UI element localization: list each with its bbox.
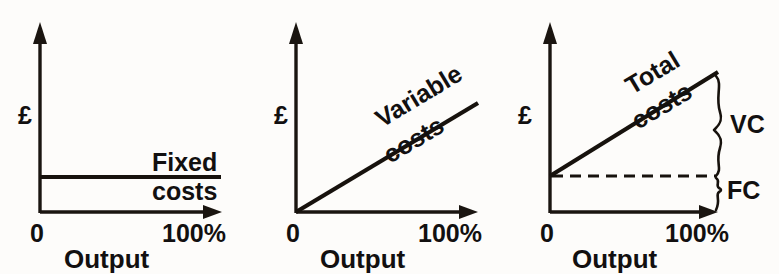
chart-total-costs: £ 0 100% Output Total costs VC FC bbox=[518, 22, 765, 274]
y-axis-arrow-icon bbox=[289, 22, 303, 44]
variable-max-tick-label: 100% bbox=[418, 219, 482, 247]
x-axis-arrow-icon bbox=[203, 205, 222, 219]
fixed-y-axis-label: £ bbox=[18, 101, 32, 129]
variable-y-axis bbox=[289, 22, 303, 213]
total-y-axis-label: £ bbox=[518, 101, 532, 129]
y-axis-arrow-icon bbox=[543, 22, 557, 44]
total-origin-tick-label: 0 bbox=[540, 219, 554, 247]
cost-behaviour-diagram: £ 0 100% Output Fixed costs £ 0 100% Out… bbox=[0, 0, 779, 274]
y-axis-arrow-icon bbox=[33, 22, 47, 44]
variable-origin-tick-label: 0 bbox=[286, 219, 300, 247]
fixed-x-axis bbox=[40, 205, 222, 219]
variable-cost-bracket-icon bbox=[714, 76, 721, 176]
total-x-axis bbox=[550, 205, 718, 219]
fixed-origin-tick-label: 0 bbox=[30, 219, 44, 247]
fixed-cost-bracket-label: FC bbox=[727, 176, 760, 204]
chart-variable-costs: £ 0 100% Output Variable costs bbox=[274, 22, 482, 274]
variable-y-axis-label: £ bbox=[274, 101, 288, 129]
variable-x-axis bbox=[296, 205, 478, 219]
x-axis-arrow-icon bbox=[459, 205, 478, 219]
total-x-axis-label: Output bbox=[572, 244, 658, 274]
variable-x-axis-label: Output bbox=[320, 244, 406, 274]
variable-cost-bracket-label: VC bbox=[730, 110, 765, 138]
fixed-costs-label-top: Fixed bbox=[152, 148, 217, 176]
chart-fixed-costs: £ 0 100% Output Fixed costs bbox=[18, 22, 226, 274]
total-y-axis bbox=[543, 22, 557, 213]
fixed-y-axis bbox=[33, 22, 47, 213]
total-max-tick-label: 100% bbox=[665, 219, 729, 247]
fixed-costs-label-bottom: costs bbox=[152, 177, 217, 205]
fixed-x-axis-label: Output bbox=[64, 244, 150, 274]
x-axis-arrow-icon bbox=[699, 205, 718, 219]
fixed-max-tick-label: 100% bbox=[162, 219, 226, 247]
fixed-cost-bracket-icon bbox=[716, 178, 721, 210]
